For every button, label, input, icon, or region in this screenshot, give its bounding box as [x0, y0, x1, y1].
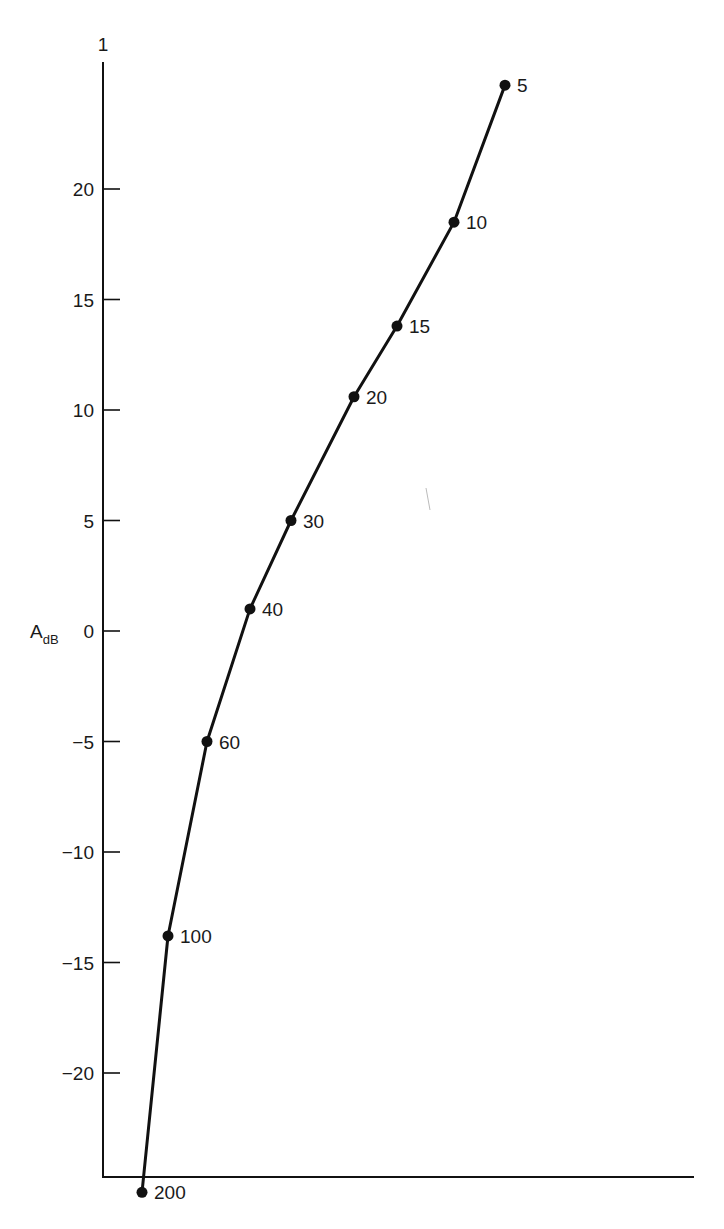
data-point-label: 40 [262, 599, 283, 620]
data-point [449, 217, 460, 228]
data-point-label: 60 [219, 732, 240, 753]
y-tick-label: −5 [72, 732, 94, 753]
y-axis-title: AdB [30, 621, 59, 647]
y-tick-label: −10 [62, 842, 94, 863]
y-axis-top-label: 1 [98, 34, 109, 55]
data-curve [142, 85, 505, 1192]
data-point [392, 321, 403, 332]
y-tick-label: 5 [83, 511, 94, 532]
data-points: 5101520304060100200 [137, 75, 528, 1203]
data-point-label: 15 [409, 316, 430, 337]
data-point [349, 391, 360, 402]
y-tick-label: 20 [73, 179, 94, 200]
y-axis-title-main: A [30, 621, 43, 642]
data-point [202, 736, 213, 747]
data-point-label: 10 [466, 212, 487, 233]
data-point [137, 1187, 148, 1198]
data-point [245, 603, 256, 614]
y-tick-label: 0 [83, 621, 94, 642]
y-tick-label: −20 [62, 1063, 94, 1084]
data-point [286, 515, 297, 526]
y-tick-label: 10 [73, 400, 94, 421]
data-point [500, 80, 511, 91]
data-point [163, 930, 174, 941]
y-tick-label: −15 [62, 953, 94, 974]
y-axis-title-sub: dB [43, 632, 59, 647]
data-point-label: 200 [154, 1182, 186, 1203]
data-point-label: 100 [180, 926, 212, 947]
chart: 1 20151050−5−10−15−20 AdB 51015203040601… [0, 0, 724, 1229]
y-ticks: 20151050−5−10−15−20 [62, 179, 120, 1084]
data-point-label: 20 [366, 387, 387, 408]
y-tick-label: 15 [73, 290, 94, 311]
data-point-label: 30 [303, 511, 324, 532]
scan-artifact [426, 488, 430, 510]
data-point-label: 5 [517, 75, 528, 96]
